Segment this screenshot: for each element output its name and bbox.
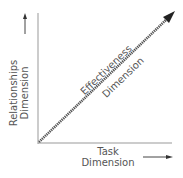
diagram: Relationships Dimension Task Dimension E…	[0, 0, 183, 178]
y-axis-label: Relationships Dimension	[8, 48, 30, 138]
y-axis-label-line1: Relationships	[8, 48, 19, 138]
x-axis-label-line1: Task	[78, 146, 138, 157]
right-arrow-icon	[143, 155, 173, 159]
y-axis-label-line2: Dimension	[19, 48, 30, 138]
x-axis-label-line2: Dimension	[78, 157, 138, 168]
up-arrow-icon	[23, 13, 27, 34]
x-axis-label: Task Dimension	[78, 146, 138, 168]
